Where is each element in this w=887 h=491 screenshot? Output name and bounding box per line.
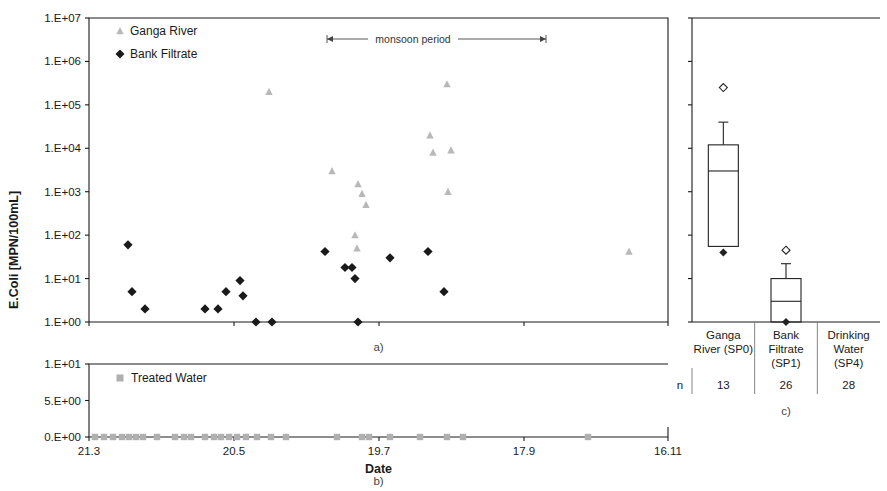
- data-point-treated-water: [268, 434, 274, 440]
- panel-b-xtick-label: 19.7: [368, 445, 390, 457]
- data-point-treated-water: [119, 434, 125, 440]
- box-iqr: [708, 145, 738, 247]
- data-point-treated-water: [140, 434, 146, 440]
- data-point-treated-water: [202, 434, 208, 440]
- series-ganga-river: [265, 80, 632, 255]
- data-point-treated-water: [417, 434, 423, 440]
- data-point-bank-filtrate: [213, 304, 222, 313]
- panel-a-ytick-label: 1.E+00: [44, 316, 81, 328]
- figure-container: 1.E+001.E+011.E+021.E+031.E+041.E+051.E+…: [0, 0, 887, 491]
- data-point-treated-water: [254, 434, 260, 440]
- legend-marker-treated-water: [117, 375, 124, 382]
- data-point-bank-filtrate: [353, 317, 362, 326]
- panel-c-n-value: 28: [842, 379, 855, 391]
- data-point-bank-filtrate: [320, 247, 329, 256]
- panel-c-category-label: Drinking: [828, 329, 870, 341]
- panel-c-category-label: Water: [834, 343, 864, 355]
- data-point-treated-water: [359, 434, 365, 440]
- box-iqr: [771, 279, 801, 322]
- data-point-treated-water: [234, 434, 240, 440]
- data-point-bank-filtrate: [238, 291, 247, 300]
- data-point-treated-water: [460, 434, 466, 440]
- data-point-treated-water: [218, 434, 224, 440]
- data-point-ganga-river: [625, 248, 632, 255]
- data-point-treated-water: [444, 434, 450, 440]
- panel-c-category-label: Filtrate: [768, 343, 803, 355]
- data-point-bank-filtrate: [127, 287, 136, 296]
- panel-c-boxplot: GangaRiver (SP0)13BankFiltrate(SP1)26Dri…: [677, 18, 880, 417]
- data-point-treated-water: [92, 434, 98, 440]
- legend-marker-bank-filtrate: [116, 50, 125, 59]
- data-point-ganga-river: [358, 190, 365, 197]
- data-point-ganga-river: [351, 231, 358, 238]
- monsoon-arrowhead: [540, 36, 546, 42]
- panel-a-ytick-label: 1.E+05: [44, 99, 81, 111]
- boxplot-1: [708, 84, 738, 257]
- data-point-ganga-river: [444, 188, 451, 195]
- legend-label-bank-filtrate: Bank Filtrate: [130, 47, 198, 61]
- legend-label-ganga-river: Ganga River: [130, 24, 197, 38]
- data-point-ganga-river: [362, 201, 369, 208]
- data-point-treated-water: [283, 434, 289, 440]
- panel-b-ytick-label: 1.E+01: [44, 358, 81, 370]
- data-point-treated-water: [387, 434, 393, 440]
- data-point-ganga-river: [265, 88, 272, 95]
- x-axis-title: Date: [365, 462, 392, 476]
- panel-c-category-label: Ganga: [706, 329, 741, 341]
- panel-a-caption: a): [373, 341, 383, 353]
- panel-a-ytick-label: 1.E+03: [44, 186, 81, 198]
- outlier-marker: [719, 84, 727, 92]
- panel-b-xtick-label: 20.5: [223, 445, 245, 457]
- panel-c-n-value: 26: [780, 379, 793, 391]
- data-point-treated-water: [585, 434, 591, 440]
- data-point-bank-filtrate: [439, 287, 448, 296]
- panel-b-scatter: 0.E+005.E+001.E+0121.320.519.717.916.11T…: [44, 358, 682, 487]
- data-point-bank-filtrate: [267, 317, 276, 326]
- panel-a-frame: [89, 18, 668, 322]
- data-point-bank-filtrate: [235, 276, 244, 285]
- monsoon-period-label: monsoon period: [375, 33, 450, 45]
- panel-c-n-row-label: n: [677, 379, 683, 391]
- data-point-treated-water: [243, 434, 249, 440]
- data-point-treated-water: [126, 434, 132, 440]
- data-point-treated-water: [133, 434, 139, 440]
- data-point-treated-water: [211, 434, 217, 440]
- data-point-bank-filtrate: [385, 253, 394, 262]
- data-point-treated-water: [366, 434, 372, 440]
- data-point-ganga-river: [328, 167, 335, 174]
- panel-a-ytick-label: 1.E+07: [44, 12, 81, 24]
- panel-c-category-label: River (SP0): [694, 343, 754, 355]
- legend-marker-ganga-river: [116, 27, 123, 34]
- data-point-bank-filtrate: [347, 263, 356, 272]
- data-point-treated-water: [334, 434, 340, 440]
- data-point-bank-filtrate: [251, 317, 260, 326]
- data-point-bank-filtrate: [221, 287, 230, 296]
- whisker-lower-marker: [782, 318, 790, 326]
- data-point-treated-water: [101, 434, 107, 440]
- series-bank-filtrate: [123, 240, 448, 326]
- data-point-treated-water: [226, 434, 232, 440]
- panel-c-category-label: (SP4): [834, 357, 864, 369]
- panel-b-ytick-label: 5.E+00: [44, 395, 81, 407]
- panel-a-ytick-label: 1.E+02: [44, 229, 81, 241]
- panel-b-xtick-label: 21.3: [78, 445, 100, 457]
- panel-c-caption: c): [781, 405, 791, 417]
- panel-a-scatter: 1.E+001.E+011.E+021.E+031.E+041.E+051.E+…: [44, 12, 668, 353]
- data-point-treated-water: [110, 434, 116, 440]
- chart-svg: 1.E+001.E+011.E+021.E+031.E+041.E+051.E+…: [0, 0, 887, 491]
- data-point-bank-filtrate: [423, 247, 432, 256]
- data-point-bank-filtrate: [350, 274, 359, 283]
- panel-b-xtick-label: 16.11: [654, 445, 682, 457]
- panel-a-ytick-label: 1.E+04: [44, 142, 81, 154]
- data-point-bank-filtrate: [200, 304, 209, 313]
- data-point-ganga-river: [443, 80, 450, 87]
- legend-label-treated-water: Treated Water: [131, 371, 207, 385]
- outlier-marker: [782, 246, 790, 254]
- data-point-treated-water: [172, 434, 178, 440]
- data-point-bank-filtrate: [140, 304, 149, 313]
- panel-c-category-label: Bank: [773, 329, 799, 341]
- data-point-ganga-river: [353, 244, 360, 251]
- y-axis-title: E.Coli [MPN/100mL]: [7, 191, 21, 309]
- data-point-treated-water: [154, 434, 160, 440]
- panel-a-ytick-label: 1.E+01: [44, 273, 81, 285]
